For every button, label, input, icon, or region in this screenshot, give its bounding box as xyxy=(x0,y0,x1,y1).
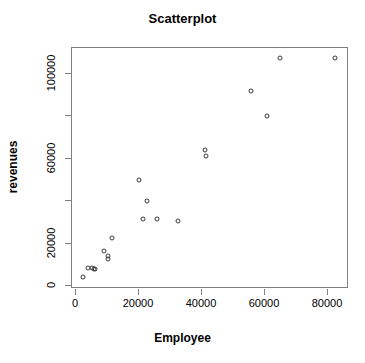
y-axis-title: revenues xyxy=(6,132,20,202)
scatterplot-figure: Scatterplot 02000060000100000 0200004000… xyxy=(0,0,365,363)
x-axis-title: Employee xyxy=(0,331,365,345)
data-point xyxy=(332,56,337,61)
data-point xyxy=(249,89,254,94)
data-point xyxy=(106,256,111,261)
data-point xyxy=(265,114,270,119)
data-point xyxy=(203,153,208,158)
y-axis-title-text: revenues xyxy=(6,141,20,194)
data-point xyxy=(145,199,150,204)
data-point xyxy=(277,56,282,61)
data-point xyxy=(140,217,145,222)
data-point xyxy=(109,236,114,241)
data-point xyxy=(154,217,159,222)
data-point xyxy=(80,274,85,279)
data-point xyxy=(203,148,208,153)
data-points xyxy=(0,0,365,363)
data-point xyxy=(92,267,97,272)
data-point xyxy=(136,178,141,183)
data-point xyxy=(176,219,181,224)
